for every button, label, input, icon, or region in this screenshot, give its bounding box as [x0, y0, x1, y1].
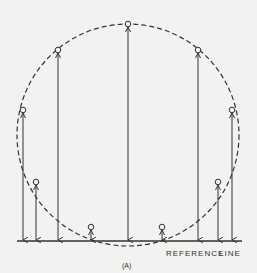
line-label: LINE [219, 249, 241, 258]
circle-point [55, 47, 61, 53]
circle-diagram: REFERENCE LINE (A) [0, 0, 257, 273]
figure-caption: (A) [122, 262, 131, 270]
circle-point [88, 224, 94, 230]
circle-point [195, 47, 201, 53]
circle-point [20, 107, 26, 113]
circle-point [215, 179, 221, 185]
vertical-arrows [21, 27, 235, 240]
circle-point [33, 179, 39, 185]
circle-point [229, 107, 235, 113]
circle-point [159, 224, 165, 230]
reference-label: REFERENCE [166, 249, 224, 258]
circle-point [125, 21, 131, 27]
